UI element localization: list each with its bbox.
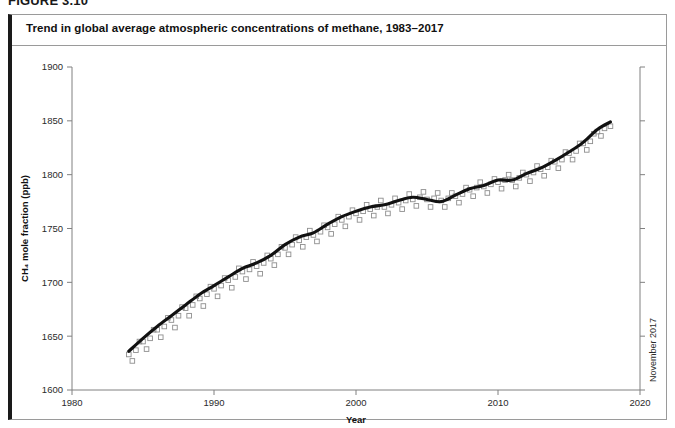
trend-line-path [129,122,611,351]
data-point-marker [528,179,533,184]
data-point-marker [272,263,277,268]
data-point-marker [343,224,348,229]
data-point-marker [190,303,195,308]
data-point-marker [442,205,447,210]
data-point-marker [300,245,305,250]
figure-root: FIGURE 3.10 Trend in global average atmo… [0,0,675,428]
data-point-marker [229,285,234,290]
x-tick-label: 1990 [203,397,224,408]
data-point-marker [386,211,391,216]
data-point-marker [258,271,263,276]
data-point-marker [247,267,252,272]
data-point-marker [148,336,153,341]
data-point-marker [127,352,132,357]
data-point-marker [134,348,139,353]
data-point-marker [513,184,518,189]
data-point-marker [357,218,362,223]
data-point-marker [457,200,462,205]
data-point-marker [570,157,575,162]
data-point-marker [608,124,613,129]
data-point-marker [371,213,376,218]
november-2017-annotation: November 2017 [648,318,658,382]
data-point-marker [428,205,433,210]
data-point-marker [176,313,181,318]
data-point-marker [244,277,249,282]
data-point-marker [485,191,490,196]
data-point-marker [542,173,547,178]
data-point-marker [286,252,291,257]
y-tick-label: 1850 [42,115,63,126]
data-point-marker [201,304,206,309]
y-tick-label: 1800 [42,169,63,180]
data-point-marker [173,325,178,330]
y-tick-label: 1750 [42,223,63,234]
data-point-marker [414,204,419,209]
chart-axes: 1600165017001750180018501900198019902000… [42,61,651,408]
monthly-data-markers [127,124,613,363]
x-tick-label: 1980 [61,397,82,408]
data-point-marker [187,313,192,318]
data-point-marker [233,275,238,280]
data-point-marker [215,294,220,299]
chart-container: 1600165017001750180018501900198019902000… [0,0,675,428]
data-point-marker [144,347,149,352]
y-tick-label: 1700 [42,277,63,288]
data-point-marker [400,207,405,212]
data-point-marker [588,139,593,144]
y-tick-label: 1600 [42,384,63,395]
data-point-marker [407,192,412,197]
data-point-marker [506,172,511,177]
data-point-marker [379,198,384,203]
data-point-marker [556,166,561,171]
data-point-marker [162,324,167,329]
x-tick-label: 2020 [629,397,650,408]
y-tick-label: 1650 [42,331,63,342]
smoothed-trend-line [129,122,611,351]
x-tick-label: 2000 [345,397,366,408]
data-point-marker [205,292,210,297]
data-point-marker [435,191,440,196]
data-point-marker [421,190,426,195]
data-point-marker [158,335,163,340]
x-axis-title: Year [346,414,366,425]
data-point-marker [315,239,320,244]
data-point-marker [130,359,135,364]
methane-trend-chart: 1600165017001750180018501900198019902000… [0,0,675,428]
y-axis-title: CH₄ mole fraction (ppb) [19,175,30,282]
data-point-marker [471,194,476,199]
chart-labels: YearCH₄ mole fraction (ppb)November 2017 [19,175,658,425]
data-point-marker [584,148,589,153]
data-point-marker [499,186,504,191]
x-tick-label: 2010 [487,397,508,408]
y-tick-label: 1900 [42,61,63,72]
data-point-marker [329,232,334,237]
